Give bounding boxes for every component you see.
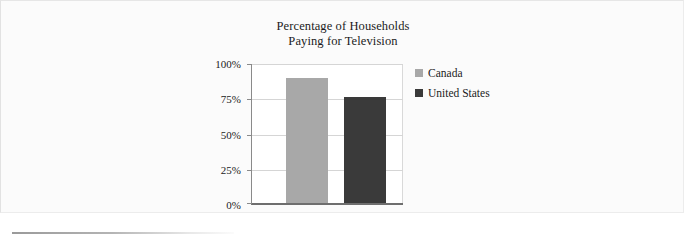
- tick-mark-100: [247, 64, 252, 65]
- legend-swatch-united-states: [415, 89, 423, 97]
- legend-label-united-states: United States: [428, 87, 490, 99]
- y-tick-label-50: 50%: [197, 129, 241, 140]
- legend-swatch-canada: [415, 69, 423, 77]
- plot-frame-right: [402, 64, 403, 203]
- gridline-100: [252, 64, 403, 65]
- tick-mark-50: [247, 135, 252, 136]
- bar-canada: [286, 78, 328, 203]
- y-tick-label-25: 25%: [197, 164, 241, 175]
- document-panel: Percentage of Households Paying for Tele…: [0, 0, 684, 213]
- legend-label-canada: Canada: [428, 67, 462, 79]
- bar-chart-figure: Percentage of Households Paying for Tele…: [197, 19, 537, 209]
- y-axis: 0% 25% 50% 75% 100%: [197, 64, 245, 205]
- plot-wrapper: 0% 25% 50% 75% 100%: [197, 64, 447, 212]
- bar-united-states: [344, 97, 386, 203]
- y-tick-label-100: 100%: [197, 59, 241, 70]
- chart-title-line-2: Paying for Television: [227, 34, 459, 49]
- chart-legend: Canada United States: [415, 63, 539, 103]
- legend-item-canada: Canada: [415, 63, 539, 83]
- legend-item-united-states: United States: [415, 83, 539, 103]
- y-tick-label-0: 0%: [197, 200, 241, 211]
- tick-mark-0: [247, 203, 252, 204]
- y-tick-label-75: 75%: [197, 94, 241, 105]
- tick-mark-25: [247, 170, 252, 171]
- chart-title-line-1: Percentage of Households: [227, 19, 459, 34]
- plot-area: [251, 64, 403, 205]
- chart-title: Percentage of Households Paying for Tele…: [227, 19, 459, 48]
- horizontal-rule: [12, 232, 234, 234]
- tick-mark-75: [247, 99, 252, 100]
